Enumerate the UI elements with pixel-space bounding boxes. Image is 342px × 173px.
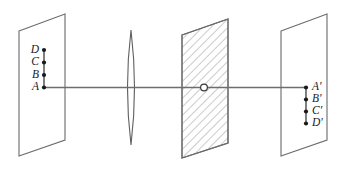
image-points-group: A′B′C′D′	[304, 80, 323, 128]
object-points-group: DCBA	[30, 43, 46, 93]
point-marker-A-prime	[304, 85, 308, 89]
diagram-canvas: DCBA A′B′C′D′	[0, 0, 342, 173]
point-label-C: C	[31, 55, 39, 67]
object-plane-group	[19, 14, 65, 156]
point-label-B-prime: B′	[312, 92, 322, 104]
point-label-D-prime: D′	[311, 116, 323, 128]
point-marker-D	[42, 48, 46, 52]
point-marker-B	[42, 73, 46, 77]
point-marker-B-prime	[304, 97, 308, 101]
object-point-labels: DCBA	[30, 43, 40, 93]
image-point-labels: A′B′C′D′	[311, 80, 323, 128]
point-label-B: B	[32, 68, 39, 80]
point-marker-A	[42, 85, 46, 89]
point-marker-C-prime	[304, 109, 308, 113]
object-plane-outline	[19, 14, 65, 156]
point-label-D: D	[30, 43, 40, 55]
point-label-C-prime: C′	[312, 104, 323, 116]
point-label-A: A	[31, 80, 40, 92]
optics-diagram-figure: DCBA A′B′C′D′	[0, 0, 342, 173]
point-label-A-prime: A′	[311, 80, 322, 92]
point-marker-D-prime	[304, 121, 308, 125]
point-marker-C	[42, 60, 46, 64]
pinhole-aperture-icon	[201, 84, 208, 91]
